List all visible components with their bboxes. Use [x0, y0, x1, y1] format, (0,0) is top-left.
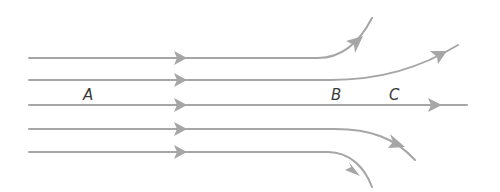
streamline-3: [29, 98, 467, 112]
label-c: C: [389, 86, 400, 104]
streamline-1: [29, 18, 372, 65]
label-b: B: [331, 86, 341, 104]
label-a: A: [82, 86, 93, 104]
streamline-2: [29, 45, 458, 87]
streamline-diagram: A B C: [0, 0, 500, 192]
arrowhead-icon: [346, 36, 363, 53]
streamline-5: [29, 145, 372, 187]
streamline-4: [29, 122, 415, 160]
